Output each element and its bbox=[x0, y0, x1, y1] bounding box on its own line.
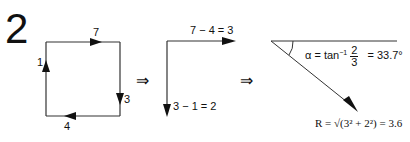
label-left: 1 bbox=[37, 56, 43, 68]
horizontal-component-label: 7 − 4 = 3 bbox=[190, 24, 233, 36]
angle-sup: −1 bbox=[339, 49, 347, 56]
resultant-label: R = √(3² + 2²) = 3.6 bbox=[315, 117, 402, 129]
angle-prefix: α = tan bbox=[305, 49, 339, 61]
angle-formula: α = tan−1 23 = 33.7° bbox=[305, 45, 403, 68]
implies-arrow-1: ⇒ bbox=[136, 71, 149, 90]
label-bottom: 4 bbox=[64, 120, 70, 132]
angle-arc bbox=[289, 41, 293, 55]
problem-number: 2 bbox=[5, 8, 28, 50]
arrow-up-icon bbox=[42, 60, 50, 72]
arrow-down-icon bbox=[116, 93, 124, 105]
label-right: 3 bbox=[124, 93, 130, 105]
angle-result: = 33.7° bbox=[367, 49, 402, 61]
angle-fraction: 23 bbox=[350, 45, 358, 68]
frac-den: 3 bbox=[350, 57, 358, 68]
label-top: 7 bbox=[93, 26, 99, 38]
vertical-component-label: 3 − 1 = 2 bbox=[173, 100, 216, 112]
implies-arrow-2: ⇒ bbox=[240, 71, 253, 90]
square-loop bbox=[42, 38, 124, 120]
arrow-left-icon bbox=[64, 112, 76, 120]
arrow-right-icon bbox=[90, 38, 102, 46]
